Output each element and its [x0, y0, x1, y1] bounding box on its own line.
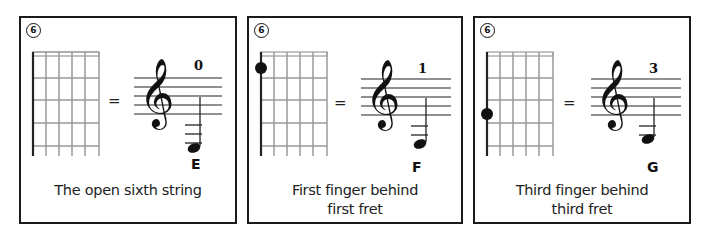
caption-line: First finger behind [249, 181, 461, 200]
fretboard [33, 52, 99, 156]
finger-dot [481, 108, 493, 120]
treble-clef-icon: 𝄞 [595, 63, 630, 123]
equals-sign: = [108, 92, 121, 110]
treble-clef-icon: 𝄞 [365, 63, 400, 123]
equals-sign: = [563, 94, 576, 112]
caption-line: third fret [475, 200, 689, 219]
note-name: E [191, 156, 201, 172]
treble-clef-icon: 𝄞 [139, 62, 174, 122]
caption: The open sixth string [21, 181, 235, 200]
panel-third-fret: 6 = 𝄞 3 G T [473, 16, 691, 224]
fretboard [481, 52, 553, 156]
fret-number: 3 [649, 61, 658, 76]
fret-number: 1 [418, 61, 427, 76]
panel-first-fret: 6 = 𝄞 1 F F [247, 16, 463, 224]
caption: Third finger behind third fret [475, 181, 689, 219]
panel-open-sixth-string: 6 = 𝄞 0 E [19, 16, 237, 224]
fret-number: 0 [194, 58, 203, 73]
caption-line: first fret [249, 200, 461, 219]
caption-line: The open sixth string [21, 181, 235, 200]
fretboard [255, 52, 327, 156]
note-name: G [647, 159, 659, 175]
caption-line: Third finger behind [475, 181, 689, 200]
caption: First finger behind first fret [249, 181, 461, 219]
note-name: F [412, 159, 422, 175]
finger-dot [255, 62, 267, 74]
equals-sign: = [334, 94, 347, 112]
